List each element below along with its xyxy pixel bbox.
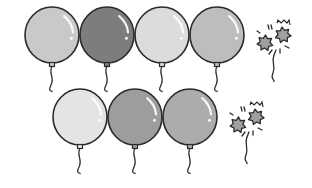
balloon-illustration	[0, 0, 312, 188]
balloon	[108, 89, 162, 174]
balloon-canvas	[0, 0, 312, 188]
balloon	[25, 7, 79, 92]
balloon	[53, 89, 107, 174]
popped-balloon	[257, 20, 291, 82]
balloon	[163, 89, 217, 174]
popped-balloon	[230, 102, 264, 164]
balloon	[190, 7, 244, 92]
balloon	[135, 7, 189, 92]
balloon	[80, 7, 134, 92]
